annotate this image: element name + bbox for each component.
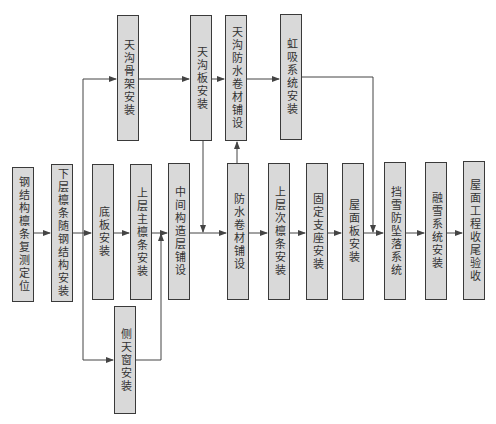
node-base-plate-install: 底板安装 <box>92 164 114 300</box>
node-label: 屋面板安装 <box>346 199 360 264</box>
node-side-skylight: 侧天窗安装 <box>114 306 136 414</box>
node-final-acceptance: 屋面工程收尾验收 <box>463 161 485 300</box>
node-upper-main-purlin: 上层主檩条安装 <box>130 164 152 300</box>
node-label: 挡雪防坠落系统 <box>388 186 402 277</box>
node-label: 防水卷材铺设 <box>231 193 245 271</box>
node-label: 固定支座安装 <box>310 193 324 271</box>
node-upper-secondary-purlin: 上层次檩条安装 <box>268 163 290 300</box>
node-label: 天沟骨架安装 <box>121 39 135 117</box>
node-siphon-system: 虹吸系统安装 <box>280 14 302 140</box>
node-steel-purlin-survey: 钢结构檩条复测定位 <box>12 167 34 302</box>
node-label: 天沟板安装 <box>194 46 208 111</box>
node-snow-melt: 融雪系统安装 <box>425 162 447 300</box>
node-label: 侧天窗安装 <box>118 328 132 393</box>
node-label: 底板安装 <box>96 206 110 258</box>
node-middle-layer: 中间构造层铺设 <box>168 163 190 300</box>
node-gutter-plate: 天沟板安装 <box>190 15 212 141</box>
node-lower-purlin-install: 下层檩条随钢结构安装 <box>51 164 73 302</box>
node-roof-panel: 屋面板安装 <box>342 163 364 300</box>
node-label: 中间构造层铺设 <box>172 186 186 277</box>
node-label: 上层主檩条安装 <box>134 187 148 278</box>
node-waterproof-membrane: 防水卷材铺设 <box>227 163 249 300</box>
node-label: 虹吸系统安装 <box>284 38 298 116</box>
node-label: 天沟防水卷材铺设 <box>229 26 243 130</box>
node-fixed-support: 固定支座安装 <box>306 163 328 300</box>
node-label: 融雪系统安装 <box>429 192 443 270</box>
node-snow-guard: 挡雪防坠落系统 <box>384 162 406 300</box>
node-label: 屋面工程收尾验收 <box>467 179 481 283</box>
node-gutter-frame: 天沟骨架安装 <box>117 15 139 141</box>
node-gutter-waterproof: 天沟防水卷材铺设 <box>225 15 247 141</box>
node-label: 下层檩条随钢结构安装 <box>55 168 69 298</box>
node-label: 钢结构檩条复测定位 <box>16 176 30 293</box>
node-label: 上层次檩条安装 <box>272 186 286 277</box>
